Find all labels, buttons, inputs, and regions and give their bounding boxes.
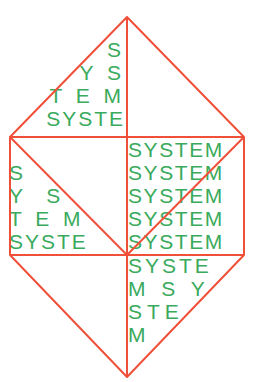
text-row: M <box>128 323 149 346</box>
text-row: Y S <box>80 61 125 84</box>
text-row: S <box>9 161 27 184</box>
text-row: SYSTE <box>9 230 88 253</box>
text-row: M S Y <box>128 277 210 300</box>
system-diamond-artwork: S Y S T E M SYSTE S Y S T E M SYSTE SYST… <box>0 0 263 382</box>
text-row: STE <box>128 300 184 323</box>
text-row: SYSTE <box>128 254 212 277</box>
top-left-triangle-text: S Y S T E M SYSTE <box>46 38 125 130</box>
text-row: SYSTE <box>46 107 125 130</box>
text-row: T E M <box>49 84 125 107</box>
text-row: SYSTEM <box>128 230 224 253</box>
text-row: SYSTEM <box>128 207 224 230</box>
middle-right-box-text: SYSTEM SYSTEM SYSTEM SYSTEM SYSTEM <box>128 138 224 253</box>
text-row: SYSTEM <box>128 138 224 161</box>
text-row: SYSTEM <box>128 184 224 207</box>
text-row: T E M <box>9 207 85 230</box>
text-row: S <box>107 38 125 61</box>
text-row: Y S <box>9 184 64 207</box>
